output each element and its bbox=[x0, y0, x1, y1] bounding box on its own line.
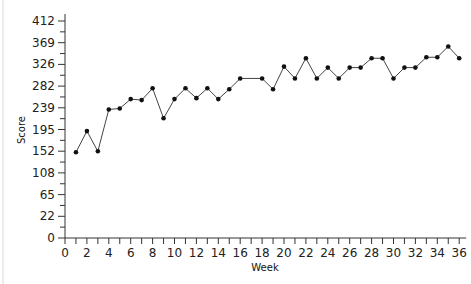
x-tick-label: 18 bbox=[254, 246, 269, 260]
line-chart: 02265108152195239282326369412 0246810121… bbox=[0, 0, 471, 284]
data-point-marker bbox=[347, 65, 352, 70]
data-point-marker bbox=[161, 116, 166, 121]
score-series bbox=[74, 44, 462, 154]
y-tick-label: 108 bbox=[32, 166, 55, 180]
x-tick-label: 30 bbox=[386, 246, 401, 260]
x-tick-label: 34 bbox=[430, 246, 445, 260]
x-tick-label: 6 bbox=[127, 246, 135, 260]
x-tick-label: 20 bbox=[276, 246, 291, 260]
y-tick-label: 412 bbox=[32, 14, 55, 28]
data-point-marker bbox=[205, 86, 210, 91]
x-tick-label: 16 bbox=[233, 246, 248, 260]
data-point-marker bbox=[128, 97, 133, 102]
data-point-marker bbox=[271, 87, 276, 92]
data-point-marker bbox=[260, 76, 265, 81]
y-tick-label: 239 bbox=[32, 101, 55, 115]
data-point-marker bbox=[172, 97, 177, 102]
x-tick-label: 26 bbox=[342, 246, 357, 260]
y-tick-label: 0 bbox=[47, 231, 55, 245]
data-point-marker bbox=[227, 87, 232, 92]
x-tick-label: 10 bbox=[167, 246, 182, 260]
x-tick-label: 32 bbox=[408, 246, 423, 260]
data-point-marker bbox=[315, 76, 320, 81]
y-tick-label: 282 bbox=[32, 79, 55, 93]
data-point-marker bbox=[446, 44, 451, 49]
y-tick-label: 22 bbox=[40, 209, 55, 223]
y-tick-label: 326 bbox=[32, 57, 55, 71]
x-tick-label: 36 bbox=[452, 246, 467, 260]
data-point-marker bbox=[183, 86, 188, 91]
data-point-marker bbox=[402, 65, 407, 70]
data-point-marker bbox=[336, 76, 341, 81]
data-point-marker bbox=[424, 55, 429, 60]
y-tick-label: 152 bbox=[32, 144, 55, 158]
data-point-marker bbox=[369, 56, 374, 61]
y-tick-label: 65 bbox=[40, 188, 55, 202]
data-point-marker bbox=[358, 65, 363, 70]
data-point-marker bbox=[238, 76, 243, 81]
data-point-marker bbox=[107, 107, 112, 112]
data-point-marker bbox=[304, 56, 309, 61]
data-point-marker bbox=[435, 55, 440, 60]
x-tick-label: 4 bbox=[105, 246, 113, 260]
data-point-marker bbox=[96, 149, 101, 154]
data-point-marker bbox=[413, 65, 418, 70]
y-axis-title: Score bbox=[16, 116, 27, 144]
data-point-marker bbox=[282, 64, 287, 69]
data-point-marker bbox=[326, 65, 331, 70]
data-point-marker bbox=[293, 76, 298, 81]
data-point-marker bbox=[117, 106, 122, 111]
y-tick-label: 195 bbox=[32, 123, 55, 137]
y-axis: 02265108152195239282326369412 bbox=[32, 14, 65, 245]
x-tick-label: 0 bbox=[61, 246, 69, 260]
data-point-marker bbox=[216, 97, 221, 102]
x-tick-label: 24 bbox=[320, 246, 335, 260]
x-axis: 024681012141618202224262830323436 bbox=[61, 238, 467, 260]
data-point-marker bbox=[194, 96, 199, 101]
x-tick-label: 12 bbox=[189, 246, 204, 260]
y-tick-label: 369 bbox=[32, 36, 55, 50]
x-tick-label: 2 bbox=[83, 246, 91, 260]
x-axis-title: Week bbox=[251, 262, 279, 273]
data-point-marker bbox=[85, 129, 90, 134]
data-point-marker bbox=[74, 150, 79, 155]
data-point-marker bbox=[380, 56, 385, 61]
data-point-marker bbox=[457, 56, 462, 61]
x-tick-label: 28 bbox=[364, 246, 379, 260]
data-point-marker bbox=[150, 86, 155, 91]
x-tick-label: 14 bbox=[211, 246, 226, 260]
data-point-marker bbox=[139, 98, 144, 103]
x-tick-label: 8 bbox=[149, 246, 157, 260]
data-point-marker bbox=[391, 76, 396, 81]
x-tick-label: 22 bbox=[298, 246, 313, 260]
